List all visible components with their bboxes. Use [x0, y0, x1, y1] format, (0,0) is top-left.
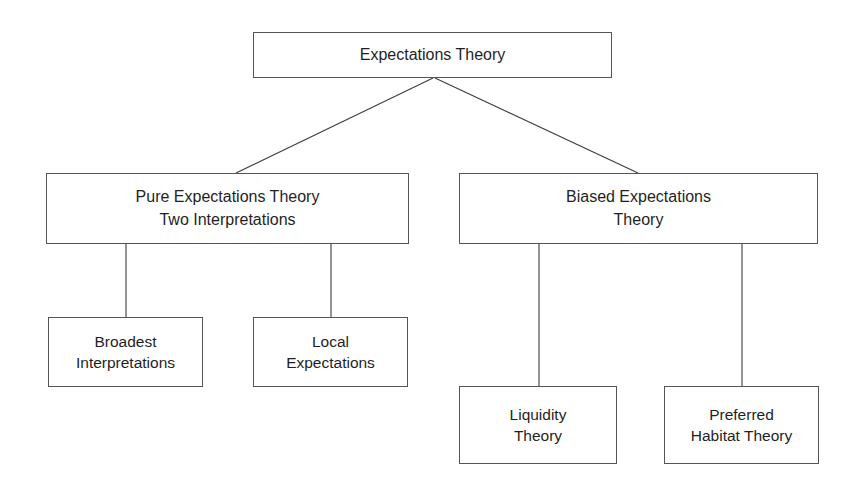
- node-local-expectations[interactable]: Local Expectations: [253, 317, 408, 387]
- node-preferred-habitat-theory[interactable]: Preferred Habitat Theory: [664, 386, 819, 464]
- node-local-expectations-line-2: Expectations: [286, 352, 375, 373]
- node-liquidity-theory-line-2: Theory: [514, 425, 562, 446]
- node-liquidity-theory[interactable]: Liquidity Theory: [459, 386, 617, 464]
- node-expectations-theory[interactable]: Expectations Theory: [253, 32, 612, 78]
- edge-root-to-biased: [435, 78, 638, 173]
- node-local-expectations-line-1: Local: [312, 331, 349, 352]
- node-broadest-interpretations-line-1: Broadest: [94, 331, 156, 352]
- expectations-theory-diagram: Expectations Theory Pure Expectations Th…: [0, 0, 853, 489]
- node-pure-expectations-theory-line-2: Two Interpretations: [159, 209, 295, 231]
- node-expectations-theory-line-1: Expectations Theory: [360, 44, 506, 66]
- node-biased-expectations-theory[interactable]: Biased Expectations Theory: [459, 173, 818, 244]
- node-broadest-interpretations[interactable]: Broadest Interpretations: [48, 317, 203, 387]
- node-pure-expectations-theory[interactable]: Pure Expectations Theory Two Interpretat…: [46, 173, 409, 244]
- node-preferred-habitat-theory-line-2: Habitat Theory: [691, 425, 792, 446]
- node-pure-expectations-theory-line-1: Pure Expectations Theory: [136, 186, 320, 208]
- edge-root-to-pure: [236, 78, 433, 173]
- node-liquidity-theory-line-1: Liquidity: [510, 404, 567, 425]
- node-biased-expectations-theory-line-1: Biased Expectations: [566, 186, 711, 208]
- node-preferred-habitat-theory-line-1: Preferred: [709, 404, 774, 425]
- node-broadest-interpretations-line-2: Interpretations: [76, 352, 175, 373]
- node-biased-expectations-theory-line-2: Theory: [614, 209, 664, 231]
